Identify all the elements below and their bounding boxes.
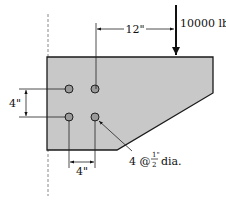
bolt-diameter-suffix: dia. bbox=[161, 155, 182, 168]
bolt-fraction-numerator: 1" bbox=[152, 151, 160, 159]
bracket-diagram: 12" 10000 lb 4" 4" 4 @ 1" 2 dia. bbox=[0, 0, 226, 202]
bracket-plate bbox=[47, 57, 213, 150]
bolt-hole bbox=[91, 113, 99, 121]
bolt-callout: 4 @ 1" 2 dia. bbox=[129, 151, 182, 169]
load-label: 10000 lb bbox=[180, 17, 226, 30]
bolt-fraction-denominator: 2 bbox=[152, 161, 156, 169]
bolt-hole bbox=[65, 85, 73, 93]
bolt-hole bbox=[91, 85, 99, 93]
dimension-label-12: 12" bbox=[125, 23, 144, 36]
dimension-label-horizontal-4: 4" bbox=[76, 165, 88, 178]
bolt-count-label: 4 @ bbox=[129, 155, 151, 168]
bolt-hole bbox=[65, 113, 73, 121]
dimension-label-vertical-4: 4" bbox=[9, 97, 21, 110]
